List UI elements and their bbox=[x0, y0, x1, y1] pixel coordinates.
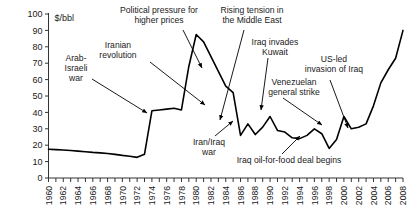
x-axis-label: 1978 bbox=[177, 186, 187, 205]
y-axis-label: 20 bbox=[32, 140, 42, 150]
x-axis-label: 1974 bbox=[147, 186, 157, 205]
x-axis-label: 1994 bbox=[295, 186, 305, 205]
oil-price-chart: 0102030405060708090100$/bbl1960196219641… bbox=[0, 0, 411, 219]
x-axis-label: 1962 bbox=[58, 186, 68, 205]
x-axis-label: 1990 bbox=[265, 186, 275, 205]
annotation-oil-for-food-leader-arrow bbox=[282, 136, 300, 154]
x-axis-label: 1980 bbox=[191, 186, 201, 205]
y-axis-label: 10 bbox=[32, 157, 42, 167]
annotation-political-pressure-leader-arrow bbox=[183, 30, 202, 68]
x-axis-label: 1964 bbox=[73, 186, 83, 205]
annotation-iran-iraq-war: Iran/Iraqwar bbox=[193, 121, 233, 157]
annotation-rising-tension-text: Rising tension inthe Middle East bbox=[220, 5, 283, 25]
x-axis-label: 2004 bbox=[369, 186, 379, 205]
x-axis-label: 1996 bbox=[310, 186, 320, 205]
y-axis-label: 70 bbox=[32, 58, 42, 68]
annotation-arab-israeli-war: Arab-Israeliwar bbox=[65, 53, 147, 113]
annotation-iran-iraq-war-leader-arrow bbox=[215, 121, 233, 136]
x-axis-label: 1972 bbox=[132, 186, 142, 205]
x-axis-label: 1986 bbox=[236, 186, 246, 205]
annotation-iranian-revolution-leader-arrow bbox=[150, 62, 205, 105]
annotation-us-led-invasion-text: US-ledinvasion of Iraq bbox=[305, 54, 364, 74]
x-axis-label: 1988 bbox=[250, 186, 260, 205]
annotation-venezuelan-strike-text: Venezuelangeneral strike bbox=[268, 77, 320, 97]
x-axis-label: 1998 bbox=[324, 186, 334, 205]
annotation-political-pressure-text: Political pressure forhigher prices bbox=[120, 5, 198, 25]
x-axis-label: 1966 bbox=[88, 186, 98, 205]
x-axis-label: 2000 bbox=[339, 186, 349, 205]
y-axis-label: 100 bbox=[27, 9, 42, 19]
y-axis-label: 30 bbox=[32, 124, 42, 134]
x-axis-label: 1984 bbox=[221, 186, 231, 205]
x-axis-label: 1976 bbox=[162, 186, 172, 205]
annotation-venezuelan-strike: Venezuelangeneral strike bbox=[268, 77, 322, 125]
annotation-oil-for-food-text: Iraq oil-for-food deal begins bbox=[237, 155, 342, 165]
annotation-iranian-revolution-text: Iranianrevolution bbox=[99, 40, 136, 60]
annotation-us-led-invasion-leader-arrow bbox=[330, 80, 348, 128]
annotation-iraq-invades-kuwait-text: Iraq invadesKuwait bbox=[252, 37, 299, 57]
annotation-arab-israeli-war-leader-arrow bbox=[92, 79, 147, 113]
x-axis-label: 1982 bbox=[206, 186, 216, 205]
x-axis-label: 2006 bbox=[383, 186, 393, 205]
x-axis-label: 2002 bbox=[354, 186, 364, 205]
y-axis-unit-label: $/bbl bbox=[55, 13, 75, 23]
y-axis-label: 40 bbox=[32, 108, 42, 118]
y-axis-label: 0 bbox=[37, 173, 42, 183]
x-axis-label: 1970 bbox=[118, 186, 128, 205]
y-axis-label: 60 bbox=[32, 75, 42, 85]
y-axis-label: 80 bbox=[32, 42, 42, 52]
annotation-iran-iraq-war-text: Iran/Iraqwar bbox=[193, 137, 225, 157]
annotation-arab-israeli-war-text: Arab-Israeliwar bbox=[65, 53, 88, 83]
annotation-rising-tension: Rising tension inthe Middle East bbox=[220, 5, 284, 120]
annotation-iranian-revolution: Iranianrevolution bbox=[99, 40, 205, 105]
chart-canvas: 0102030405060708090100$/bbl1960196219641… bbox=[0, 0, 411, 219]
annotation-rising-tension-leader-arrow bbox=[220, 30, 244, 120]
annotation-venezuelan-strike-leader-arrow bbox=[283, 98, 322, 125]
x-axis-label: 1960 bbox=[44, 186, 54, 205]
annotation-iraq-invades-kuwait-leader-arrow bbox=[261, 58, 268, 110]
x-axis-label: 1968 bbox=[103, 186, 113, 205]
y-axis-label: 50 bbox=[32, 91, 42, 101]
x-axis-label: 1992 bbox=[280, 186, 290, 205]
x-axis-label: 2008 bbox=[398, 186, 408, 205]
annotation-iraq-invades-kuwait: Iraq invadesKuwait bbox=[252, 37, 299, 110]
y-axis-label: 90 bbox=[32, 26, 42, 36]
